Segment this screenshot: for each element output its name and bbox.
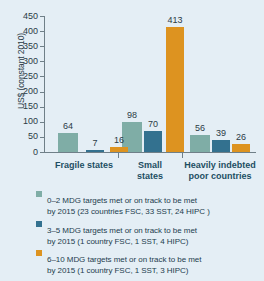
legend-swatch-icon	[36, 250, 42, 256]
legend-label: 3–5 MDG targets met or on track to be me…	[47, 226, 258, 248]
bar	[166, 27, 184, 152]
y-tick-label: 150	[23, 102, 38, 111]
legend-label: 0–2 MDG targets met or on track to be me…	[47, 196, 258, 218]
category-label: Smallstates	[120, 160, 180, 181]
y-tick-label: 200	[23, 87, 38, 96]
legend-label-line2: by 2015 (1 country FSC, 1 SST, 4 HIPC)	[47, 237, 258, 248]
bar-value-label: 413	[159, 16, 191, 25]
y-axis-tick-labels: 450400350300250200150100500	[0, 0, 38, 281]
legend-swatch-icon	[36, 191, 42, 197]
legend-label-line1: 0–2 MDG targets met or on track to be me…	[47, 196, 197, 205]
x-tick-mark	[182, 153, 183, 158]
legend-label-line2: by 2015 (23 countries FSC, 33 SST, 24 HI…	[47, 207, 258, 218]
legend-item[interactable]: 3–5 MDG targets met or on track to be me…	[36, 219, 258, 248]
legend-item[interactable]: 0–2 MDG targets met or on track to be me…	[36, 189, 258, 218]
y-tick-label: 450	[23, 12, 38, 21]
y-tick-label: 0	[33, 148, 38, 157]
category-label-line: Fragile states	[48, 160, 120, 171]
category-label-line: Small	[120, 160, 180, 171]
y-tick-label: 250	[23, 72, 38, 81]
x-axis-line	[44, 152, 256, 153]
bar	[86, 150, 104, 152]
category-label: Heavily indebtedpoor countries	[180, 160, 260, 181]
category-label-line: poor countries	[180, 171, 260, 182]
legend-label: 6–10 MDG targets met or on track to be m…	[47, 255, 258, 277]
bar	[144, 131, 162, 152]
bar-value-label: 16	[103, 136, 135, 145]
y-tick-label: 50	[28, 132, 38, 141]
legend-swatch-icon	[36, 221, 42, 227]
y-tick-label: 300	[23, 57, 38, 66]
legend-label-line1: 6–10 MDG targets met or on track to be m…	[47, 255, 201, 264]
category-label: Fragile states	[48, 160, 120, 171]
bar	[232, 144, 250, 152]
legend-item[interactable]: 6–10 MDG targets met or on track to be m…	[36, 248, 258, 277]
y-tick-label: 400	[23, 27, 38, 36]
bar-value-label: 64	[51, 122, 85, 131]
plot-area: 649856770391641326	[44, 16, 256, 152]
chart-legend: 0–2 MDG targets met or on track to be me…	[36, 189, 258, 278]
y-tick-label: 100	[23, 117, 38, 126]
y-tick-label: 350	[23, 42, 38, 51]
bar	[58, 133, 78, 152]
legend-label-line2: by 2015 (1 country FSC, 1 SST, 3 HIPC)	[47, 266, 258, 277]
bar-value-label: 26	[225, 133, 257, 142]
bar-chart-figure: US$ (constant 2010) 45040035030025020015…	[0, 0, 264, 281]
bar-value-label: 70	[137, 120, 169, 129]
category-label-line: states	[120, 171, 180, 182]
legend-label-line1: 3–5 MDG targets met or on track to be me…	[47, 226, 197, 235]
x-tick-mark	[118, 153, 119, 158]
category-label-line: Heavily indebted	[180, 160, 260, 171]
bar	[110, 147, 128, 152]
